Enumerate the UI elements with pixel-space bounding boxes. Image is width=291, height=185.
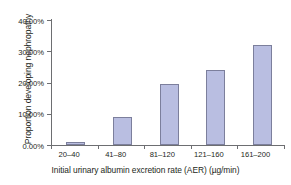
x-tick-mark bbox=[51, 146, 52, 149]
x-tick-mark bbox=[98, 146, 99, 149]
y-tick-label: 20.00% bbox=[4, 79, 44, 88]
x-tick-label: 41–80 bbox=[92, 150, 139, 159]
x-tick-mark bbox=[284, 146, 285, 149]
y-tick-mark bbox=[47, 51, 51, 52]
bar-20-40 bbox=[66, 142, 85, 145]
x-tick-label: 121–160 bbox=[186, 150, 233, 159]
y-tick-label: 30.00% bbox=[4, 48, 44, 57]
y-tick-label: 40.00% bbox=[4, 17, 44, 26]
bar-41-80 bbox=[113, 117, 132, 145]
x-tick-mark bbox=[237, 146, 238, 149]
bar-121-160 bbox=[206, 70, 225, 145]
y-tick-label: 10.00% bbox=[4, 110, 44, 119]
x-axis-line bbox=[51, 145, 285, 146]
x-tick-mark bbox=[144, 146, 145, 149]
bar-chart: Proportion developing nephropathy 0.00% … bbox=[0, 0, 291, 185]
x-tick-label: 161–200 bbox=[232, 150, 279, 159]
x-tick-label: 20–40 bbox=[46, 150, 93, 159]
x-tick-label: 81–120 bbox=[139, 150, 186, 159]
y-tick-label: 0.00% bbox=[4, 142, 44, 151]
x-axis-title: Initial urinary albumin excretion rate (… bbox=[0, 165, 291, 175]
plot-area bbox=[52, 20, 285, 145]
x-tick-mark bbox=[191, 146, 192, 149]
y-tick-mark bbox=[47, 83, 51, 84]
y-tick-mark bbox=[47, 114, 51, 115]
bar-161-200 bbox=[253, 45, 272, 145]
y-tick-mark bbox=[47, 20, 51, 21]
bar-81-120 bbox=[160, 84, 179, 145]
